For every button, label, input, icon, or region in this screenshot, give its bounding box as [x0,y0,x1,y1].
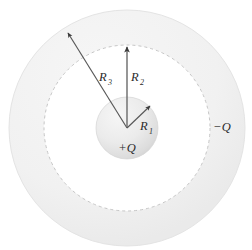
radius-label-r3-base: R [98,70,107,84]
outer-shell-charge-label: −Q [213,120,230,134]
radius-label-r1-subscript: 1 [149,127,153,136]
radius-label-r3-subscript: 3 [107,78,112,87]
radius-label-r2-base: R [130,70,139,84]
radius-label-r1-base: R [139,119,148,133]
radius-label-r2: R 2 [130,70,144,87]
radius-label-r2-subscript: 2 [140,78,144,87]
inner-sphere-charge-label: +Q [118,141,135,155]
diagram-canvas: R 3 R 2 R 1 +Q −Q [0,0,252,250]
physics-diagram-figure: R 3 R 2 R 1 +Q −Q [0,0,252,250]
